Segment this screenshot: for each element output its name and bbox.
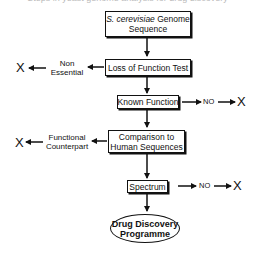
genome-word: Genome xyxy=(155,14,190,24)
functional-counterpart-label: Functional Counterpart xyxy=(44,133,90,151)
species-name: S. cerevisiae xyxy=(106,14,155,24)
spectrum-label: Spectrum xyxy=(129,182,165,192)
reject-x-icon: X xyxy=(237,95,246,108)
genome-node-line2: Sequence xyxy=(129,24,167,34)
spectrum-node: Spectrum xyxy=(127,180,168,193)
genome-sequence-node: S. cerevisiae Genome Sequence xyxy=(105,11,191,37)
reject-x-icon: X xyxy=(233,179,242,192)
known-function-node: Known Function xyxy=(117,95,179,109)
non-essential-line1: Non xyxy=(48,59,86,68)
loss-of-function-test-node: Loss of Function Test xyxy=(105,59,191,76)
known-function-no-label: NO xyxy=(203,98,214,106)
loss-test-label: Loss of Function Test xyxy=(108,63,188,73)
comparison-line1: Comparison to xyxy=(119,132,174,142)
reject-x-icon: X xyxy=(16,61,25,74)
comparison-human-sequences-node: Comparison to Human Sequences xyxy=(108,130,185,153)
drug-discovery-programme-node: Drug Discovery Programme xyxy=(110,214,180,243)
drug-discovery-line1: Drug Discovery xyxy=(112,219,179,229)
drug-discovery-line2: Programme xyxy=(120,229,170,239)
functional-counterpart-line2: Counterpart xyxy=(44,142,90,151)
non-essential-label: Non Essential xyxy=(48,59,86,77)
comparison-line2: Human Sequences xyxy=(110,142,182,152)
functional-counterpart-line1: Functional xyxy=(44,133,90,142)
non-essential-line2: Essential xyxy=(48,68,86,77)
genome-node-line1: S. cerevisiae Genome xyxy=(106,14,190,24)
reject-x-icon: X xyxy=(15,136,24,149)
known-function-label: Known Function xyxy=(118,97,179,107)
spectrum-no-label: NO xyxy=(199,182,210,190)
